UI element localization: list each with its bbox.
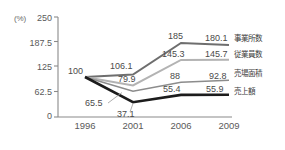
y-axis-ticks xyxy=(54,17,58,117)
value-label-2001-employees: 79.9 xyxy=(118,75,136,84)
legend-item-sales: 売上額 xyxy=(234,88,255,96)
x-tick-1996: 1996 xyxy=(63,121,107,131)
legend-item-floor-area: 売場面積 xyxy=(234,70,262,78)
chart-container: (%) 250 187.5 125 62.5 0 xyxy=(0,0,285,150)
legend-item-establishments: 事業所数 xyxy=(234,35,262,43)
value-label-2006-establishments: 185 xyxy=(168,32,183,41)
value-label-1996-origin: 100 xyxy=(68,67,83,76)
value-label-2009-employees: 145.7 xyxy=(205,50,228,59)
legend-item-employees: 従業員数 xyxy=(234,51,262,59)
value-label-2001-establishments: 106.1 xyxy=(110,62,133,71)
x-tick-2001: 2001 xyxy=(111,121,155,131)
value-label-2001-sales: 37.1 xyxy=(117,110,135,119)
value-label-2009-establishments: 180.1 xyxy=(205,34,228,43)
chart-legend: 事業所数 従業員数 売場面積 売上額 xyxy=(234,0,285,150)
x-tick-2006: 2006 xyxy=(159,121,203,131)
value-label-2006-floor-area: 88 xyxy=(170,72,180,81)
value-label-2009-floor-area: 92.8 xyxy=(209,72,227,81)
value-label-2009-sales: 55.9 xyxy=(206,85,224,94)
value-label-2006-employees: 145.3 xyxy=(162,50,185,59)
value-label-2006-sales: 55.4 xyxy=(163,85,181,94)
value-label-2001-floor-area: 65.5 xyxy=(85,99,103,108)
